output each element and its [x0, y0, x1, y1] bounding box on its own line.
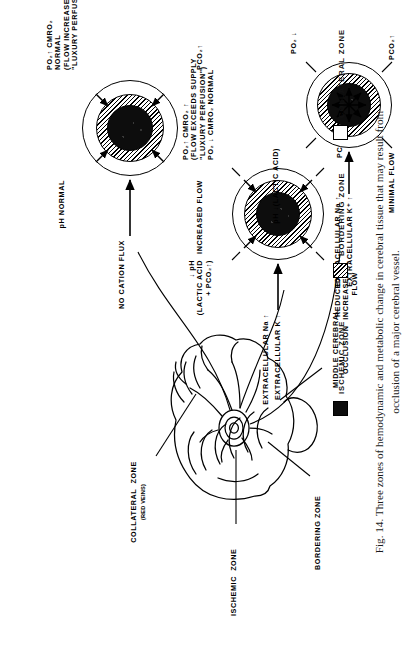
- legend-swatch-collateral: [333, 125, 348, 140]
- legend-label-bordering: BORDERING ZONE: [337, 172, 346, 256]
- figure-caption-wrap: Fig. 14. Three zones of hemodynamic and …: [372, 32, 404, 632]
- legend-label-collateral: COLLATERAL ZONE: [337, 29, 346, 118]
- figure-caption: Fig. 14. Three zones of hemodynamic and …: [372, 32, 404, 632]
- legend-row-collateral: COLLATERAL ZONE: [333, 0, 351, 140]
- legend-swatch-bordering: [333, 263, 348, 278]
- legend-swatch-ischemic: [333, 401, 348, 416]
- legend-label-ischemic: ISCHEMIC ZONE: [337, 321, 346, 394]
